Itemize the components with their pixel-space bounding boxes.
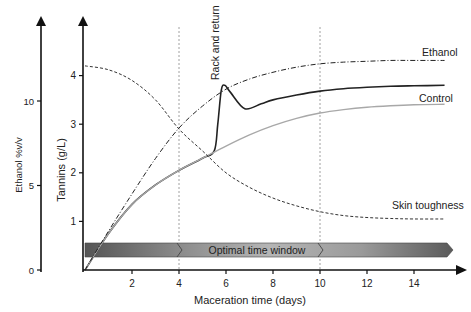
skin-toughness-label: Skin toughness xyxy=(392,199,464,211)
series-skin-toughness xyxy=(85,66,445,219)
time-tick-label: 4 xyxy=(176,278,182,289)
y-axis-label: Tannins (g/L) xyxy=(55,138,67,202)
x-axis-label: Maceration time (days) xyxy=(194,294,306,306)
time-tick-label: 12 xyxy=(361,278,373,289)
time-axis: 2468101214 xyxy=(83,265,467,289)
time-tick-label: 2 xyxy=(129,278,135,289)
ethanol-axis: 0510 xyxy=(23,16,46,276)
time-tick-label: 10 xyxy=(314,278,326,289)
ethanol-tick-label: 0 xyxy=(29,265,34,276)
ethanol-tick-label: 10 xyxy=(23,96,34,107)
time-axis-arrow-icon xyxy=(456,265,467,275)
ethanol-label: Ethanol xyxy=(422,46,458,58)
tannin-tick-label: 1 xyxy=(70,216,76,227)
series-rack-and-return xyxy=(85,85,445,270)
tannin-tick-label: 3 xyxy=(70,119,76,130)
ethanol-tick-label: 5 xyxy=(29,180,34,191)
tannin-axis: 1234 xyxy=(70,16,88,272)
secondary-y-axis-label: Ethanol %v/v xyxy=(13,137,24,193)
tannin-tick-label: 4 xyxy=(70,70,76,81)
tannin-tick-label: 2 xyxy=(70,167,76,178)
rack-return-label: Rack and return xyxy=(209,5,221,80)
time-tick-label: 6 xyxy=(223,278,229,289)
tannin-axis-arrow-icon xyxy=(78,16,88,26)
series-ethanol xyxy=(85,60,445,270)
series-layer xyxy=(85,60,445,270)
band-label: Optimal time window xyxy=(209,244,306,256)
ethanol-axis-arrow-icon xyxy=(36,16,46,26)
time-tick-label: 8 xyxy=(270,278,276,289)
control-label: Control xyxy=(419,92,453,104)
time-tick-label: 14 xyxy=(408,278,420,289)
chart: 0510 1234 2468101214 Maceration time (da… xyxy=(0,0,471,312)
